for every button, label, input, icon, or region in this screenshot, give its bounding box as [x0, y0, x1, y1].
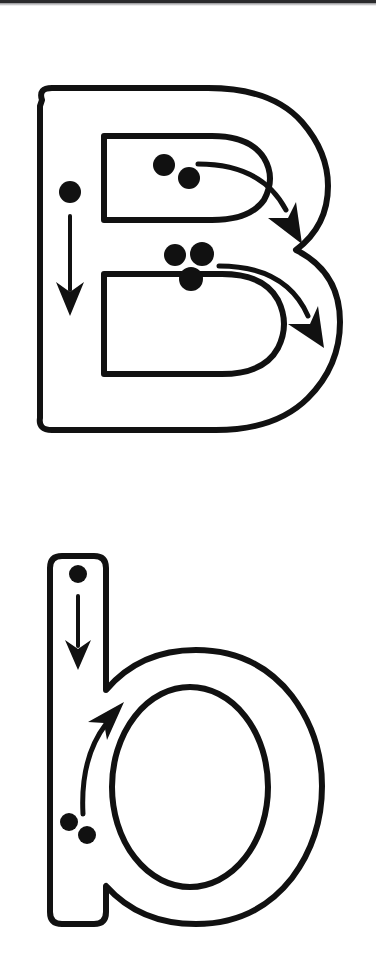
- uppercase-b-stroke1-start-dot: [59, 181, 81, 203]
- uppercase-b-letter: [0, 60, 376, 480]
- uppercase-b-stroke2-start-dot-a: [153, 154, 175, 176]
- lowercase-b-stroke2-start-dot-a: [60, 813, 78, 831]
- lowercase-b-stroke1-start-dot: [69, 565, 87, 583]
- lowercase-b-stroke2-arrow-shaft: [83, 724, 106, 814]
- uppercase-b-outer-outline: [40, 88, 340, 430]
- worksheet-page: [0, 0, 376, 958]
- lowercase-b-stroke2-arrow-head: [88, 702, 124, 740]
- top-edge-band-fade: [0, 3, 376, 6]
- lowercase-b-outer-outline: [50, 556, 322, 924]
- uppercase-b-stroke2-arrow-shaft: [198, 164, 286, 210]
- uppercase-b-stroke3-start-dot-a: [164, 244, 186, 266]
- uppercase-b-stroke2-start-dot-b: [178, 167, 200, 189]
- uppercase-b-stroke3-start-dot-b: [190, 242, 214, 266]
- lowercase-b-bowl-counter: [112, 687, 268, 887]
- lowercase-b-letter: [0, 520, 376, 958]
- uppercase-b-stroke3-start-dot-c: [179, 267, 203, 291]
- lowercase-b-stroke2-start-dot-b: [78, 826, 96, 844]
